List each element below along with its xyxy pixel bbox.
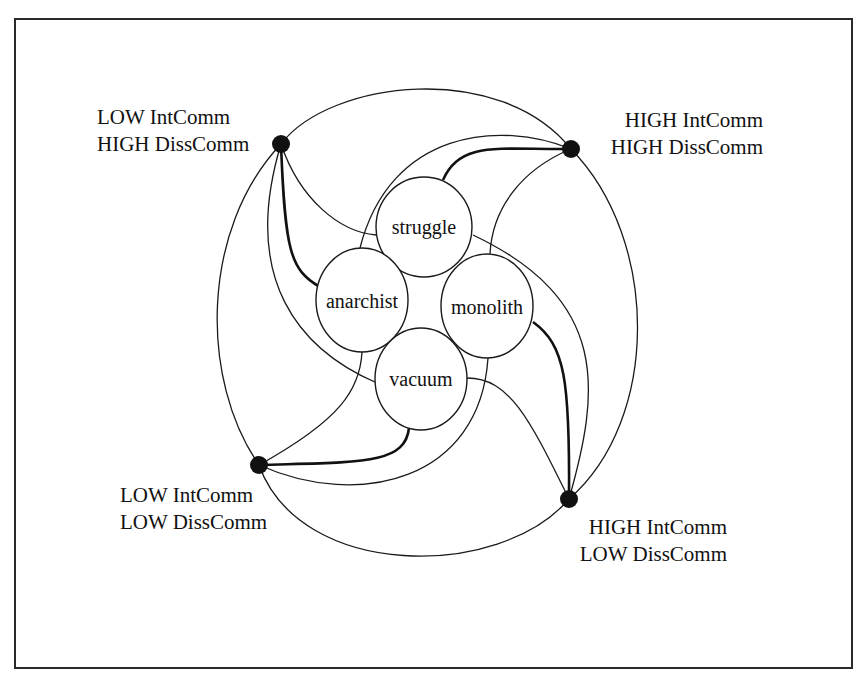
edge-bl-br — [259, 465, 569, 556]
node-label-vacuum: vacuum — [389, 368, 453, 390]
node-label-struggle: struggle — [392, 216, 457, 239]
corner-label-tl-line2: HIGH DissComm — [97, 131, 249, 158]
edges — [217, 89, 637, 556]
edge-tl-bl — [217, 144, 281, 465]
edge-tl-tr — [281, 89, 571, 149]
edge-tl-struggle — [281, 144, 376, 235]
corner-label-bl-line1: LOW IntComm — [120, 482, 267, 509]
corner-dot-tl — [272, 135, 290, 153]
corner-dot-tr — [562, 140, 580, 158]
node-label-monolith: monolith — [451, 296, 523, 318]
edge-br-vacuum — [467, 378, 569, 499]
corner-label-tr-line1: HIGH IntComm — [611, 107, 763, 134]
node-label-anarchist: anarchist — [326, 290, 399, 312]
corner-label-tr: HIGH IntComm HIGH DissComm — [611, 107, 763, 161]
corner-label-br-line2: LOW DissComm — [580, 541, 727, 568]
edge-tr-struggle — [443, 149, 571, 180]
corner-label-tl-line1: LOW IntComm — [97, 104, 249, 131]
corner-label-tr-line2: HIGH DissComm — [611, 134, 763, 161]
corner-label-bl: LOW IntComm LOW DissComm — [120, 482, 267, 536]
corner-label-bl-line2: LOW DissComm — [120, 509, 267, 536]
node-anarchist: anarchist — [316, 248, 408, 352]
corner-label-br: HIGH IntComm LOW DissComm — [580, 514, 727, 568]
edge-bl-anarchist — [259, 352, 362, 465]
corner-label-br-line1: HIGH IntComm — [580, 514, 727, 541]
edge-tr-br — [569, 149, 638, 499]
corner-dot-br — [560, 490, 578, 508]
edge-br-monolith — [533, 322, 569, 499]
node-monolith: monolith — [441, 254, 533, 358]
edge-tl-anarchist — [281, 144, 320, 287]
corner-dot-bl — [250, 456, 268, 474]
edge-tr-monolith — [490, 149, 571, 254]
edge-bl-vacuum — [259, 428, 409, 465]
corner-label-tl: LOW IntComm HIGH DissComm — [97, 104, 249, 158]
node-vacuum: vacuum — [375, 328, 467, 430]
